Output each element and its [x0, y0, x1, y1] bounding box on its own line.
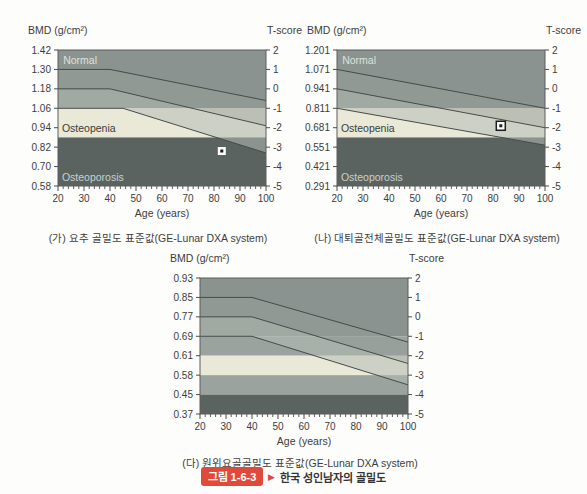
x-tick-label: 60 — [435, 193, 447, 204]
chart-total-femur: 20304050607080901001.20121.07110.94100.8… — [293, 20, 581, 220]
x-tick-label: 80 — [208, 193, 220, 204]
chart-lumbar-spine-caption: (가) 요추 골밀도 표준값(GE-Lunar DXA system) — [14, 230, 302, 245]
t-score-tick-label: 0 — [552, 83, 558, 94]
t-score-tick-label: -4 — [552, 161, 561, 172]
t-score-tick-label: -3 — [273, 142, 282, 153]
region-label-osteopenia: Osteopenia — [341, 122, 395, 134]
x-tick-label: 40 — [104, 193, 116, 204]
bmd-tick-label: 0.85 — [174, 292, 194, 303]
x-tick-label: 80 — [487, 193, 499, 204]
x-tick-label: 100 — [258, 193, 275, 204]
t-score-tick-label: 1 — [415, 292, 421, 303]
t-score-tick-label: -5 — [415, 409, 424, 420]
bmd-tick-label: 0.421 — [305, 161, 330, 172]
x-tick-label: 80 — [350, 421, 362, 432]
bmd-tick-label: 0.45 — [174, 389, 194, 400]
y-axis-title-bmd: BMD (g/cm²) — [28, 24, 88, 36]
chart-lumbar-spine-svg: 20304050607080901001.4221.3011.1801.06-1… — [14, 20, 302, 220]
bmd-tick-label: 0.58 — [174, 370, 194, 381]
bmd-tick-label: 1.30 — [32, 64, 52, 75]
region-label-normal: Normal — [63, 54, 97, 66]
bmd-tick-label: 0.94 — [32, 122, 52, 133]
x-tick-label: 50 — [409, 193, 421, 204]
figure-caption: 그림 1-6-3 ▶ 한국 성인남자의 골밀도 — [0, 467, 587, 486]
bmd-tick-label: 1.201 — [305, 45, 330, 56]
bmd-tick-label: 0.82 — [32, 142, 52, 153]
y-axis-title-tscore: T-score — [409, 252, 444, 264]
t-score-tick-label: 0 — [415, 311, 421, 322]
t-score-tick-label: -3 — [552, 142, 561, 153]
t-score-tick-label: -4 — [273, 161, 282, 172]
t-score-tick-label: 2 — [415, 273, 421, 284]
x-axis-title: Age (years) — [277, 435, 331, 447]
x-tick-label: 90 — [513, 193, 525, 204]
x-tick-label: 50 — [130, 193, 142, 204]
bmd-tick-label: 1.42 — [32, 45, 52, 56]
bmd-tick-label: 0.291 — [305, 181, 330, 192]
x-tick-label: 60 — [298, 421, 310, 432]
bmd-tick-label: 0.61 — [174, 350, 194, 361]
x-tick-label: 70 — [324, 421, 336, 432]
region-label-osteopenia: Osteopenia — [62, 122, 116, 134]
t-score-tick-label: -5 — [273, 181, 282, 192]
x-axis-title: Age (years) — [135, 207, 189, 219]
t-score-tick-label: -3 — [415, 370, 424, 381]
t-score-tick-label: -2 — [552, 122, 561, 133]
caption-arrow-icon: ▶ — [268, 472, 275, 482]
bmd-tick-label: 1.18 — [32, 83, 52, 94]
t-score-tick-label: -2 — [273, 122, 282, 133]
x-tick-label: 20 — [331, 193, 343, 204]
bmd-tick-label: 0.69 — [174, 331, 194, 342]
x-tick-label: 100 — [400, 421, 417, 432]
t-score-tick-label: 2 — [552, 45, 558, 56]
bmd-tick-label: 1.06 — [32, 103, 52, 114]
chart-total-femur-svg: 20304050607080901001.20121.07110.94100.8… — [293, 20, 581, 220]
x-tick-label: 100 — [537, 193, 554, 204]
bmd-tick-label: 0.70 — [32, 161, 52, 172]
bmd-tick-label: 0.93 — [174, 273, 194, 284]
bmd-tick-label: 0.811 — [306, 103, 331, 114]
bmd-tick-label: 0.58 — [32, 181, 52, 192]
x-tick-label: 40 — [383, 193, 395, 204]
bmd-tick-label: 1.071 — [305, 64, 330, 75]
bmd-tick-label: 0.37 — [174, 409, 194, 420]
t-score-tick-label: -2 — [415, 350, 424, 361]
region-label-normal: Normal — [342, 54, 376, 66]
t-score-tick-label: -4 — [415, 389, 424, 400]
x-tick-label: 20 — [194, 421, 206, 432]
zone-mid-lower — [200, 375, 408, 394]
figure-page: 20304050607080901001.4221.3011.1801.06-1… — [0, 0, 587, 494]
t-score-tick-label: 0 — [273, 83, 279, 94]
t-score-tick-label: 1 — [552, 64, 558, 75]
y-axis-title-tscore: T-score — [546, 24, 581, 36]
t-score-tick-label: 2 — [273, 45, 279, 56]
x-tick-label: 50 — [272, 421, 284, 432]
region-label-osteoporosis: Osteoporosis — [341, 171, 403, 183]
bmd-tick-label: 0.681 — [305, 122, 330, 133]
x-axis-title: Age (years) — [414, 207, 468, 219]
region-label-osteoporosis: Osteoporosis — [62, 171, 124, 183]
x-tick-label: 90 — [234, 193, 246, 204]
chart-distal-radius-svg: 20304050607080901000.9320.8510.7700.69-1… — [156, 248, 444, 448]
figure-title: 한국 성인남자의 골밀도 — [280, 469, 386, 485]
bmd-tick-label: 0.941 — [305, 83, 330, 94]
patient-marker-dot — [499, 124, 502, 127]
x-tick-label: 30 — [220, 421, 232, 432]
x-tick-label: 30 — [78, 193, 90, 204]
x-tick-label: 70 — [182, 193, 194, 204]
x-tick-label: 40 — [246, 421, 258, 432]
t-score-tick-label: -1 — [415, 331, 424, 342]
zone-osteoporosis — [200, 395, 408, 414]
t-score-tick-label: -1 — [552, 103, 561, 114]
t-score-tick-label: 1 — [273, 64, 279, 75]
x-tick-label: 20 — [52, 193, 64, 204]
chart-total-femur-caption: (나) 대퇴골전체골밀도 표준값(GE-Lunar DXA system) — [293, 230, 581, 245]
patient-marker-dot — [220, 150, 223, 153]
bmd-tick-label: 0.77 — [174, 311, 194, 322]
t-score-tick-label: -1 — [273, 103, 282, 114]
x-tick-label: 90 — [376, 421, 388, 432]
chart-distal-radius: 20304050607080901000.9320.8510.7700.69-1… — [156, 248, 444, 448]
x-tick-label: 60 — [156, 193, 168, 204]
x-tick-label: 70 — [461, 193, 473, 204]
y-axis-title-bmd: BMD (g/cm²) — [307, 24, 367, 36]
